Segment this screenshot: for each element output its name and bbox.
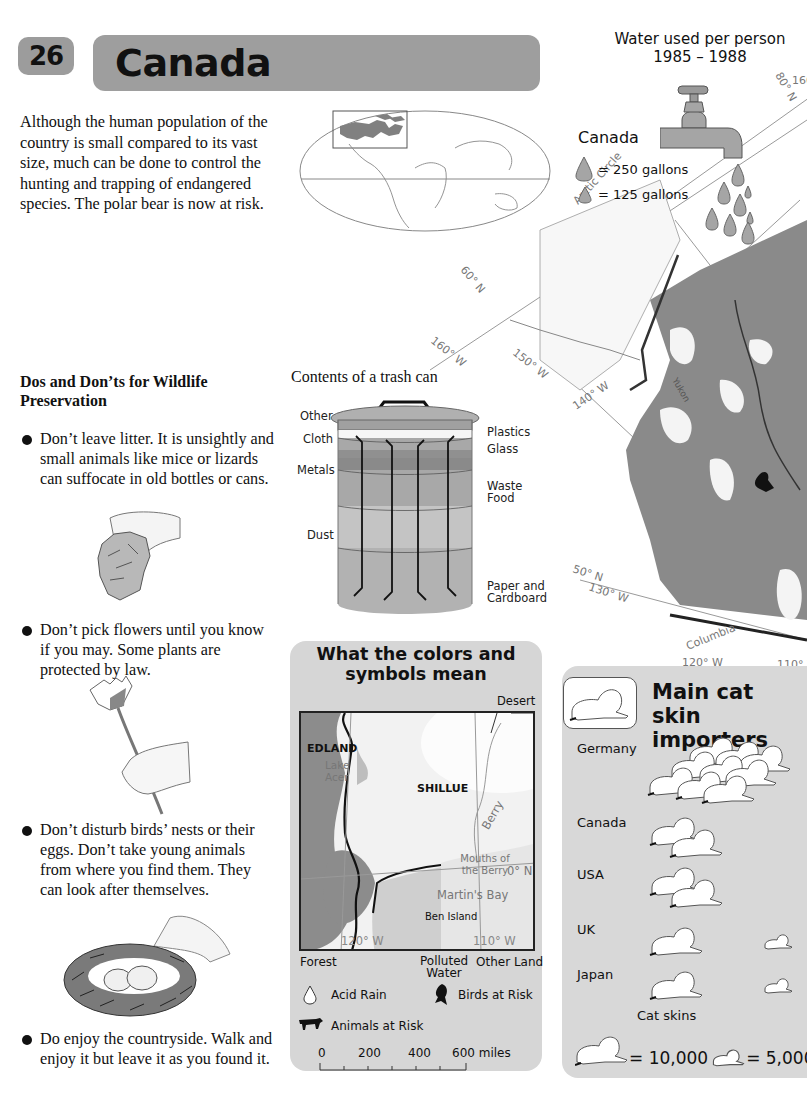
bullet-icon bbox=[22, 626, 32, 636]
dos-donts-item-text: Don’t leave litter. It is unsightly and … bbox=[40, 430, 274, 488]
dos-donts-heading: Dos and Don’ts for Wildlife Preservation bbox=[20, 372, 270, 410]
hand-crumpled-paper-illustration bbox=[80, 508, 190, 603]
legend-key-forest: Forest bbox=[300, 955, 337, 969]
legend-label-bay: Martin's Bay bbox=[437, 889, 508, 901]
legend-label-island: Ben Island bbox=[425, 911, 477, 923]
legend-title: What the colors and symbols mean bbox=[290, 644, 542, 684]
trash-label-metals: Metals bbox=[297, 464, 335, 476]
cat-header-icon-box bbox=[563, 677, 637, 729]
trash-label-cloth: Cloth bbox=[303, 433, 333, 445]
cat-skins-key-label: Cat skins bbox=[637, 1008, 696, 1023]
dos-donts-item-text: Don’t pick flowers until you know if you… bbox=[40, 621, 264, 679]
small-lion-key-value: = 5,000 bbox=[746, 1048, 807, 1068]
map-label-lat-50: 50° N bbox=[571, 562, 605, 584]
trash-label-plastics: Plastics bbox=[487, 426, 530, 438]
legend-label-desert: Desert bbox=[497, 695, 535, 707]
scale-tick-200: 200 bbox=[358, 1046, 381, 1060]
legend-symbol-birds-label: Birds at Risk bbox=[458, 988, 533, 1002]
legend-sample-map: EDLAND Lake Acer SHILLUE Berry Mouths of… bbox=[299, 711, 535, 951]
map-label-lon-160: 160° W bbox=[428, 334, 468, 369]
bullet-icon bbox=[22, 826, 32, 836]
water-chart-title-line2: 1985 – 1988 bbox=[600, 48, 800, 66]
cat-skin-pictograms bbox=[640, 735, 807, 1005]
map-label-lon-160-top: 160 bbox=[792, 74, 807, 87]
cat-row-country: Germany bbox=[577, 741, 637, 756]
legend-symbol-acid-rain-label: Acid Rain bbox=[331, 988, 387, 1002]
water-chart-title: Water used per person 1985 – 1988 bbox=[600, 30, 800, 66]
cat-skins-key: = 10,000 = 5,000 bbox=[575, 1034, 807, 1068]
dos-donts-item-text: Don’t disturb birds’ nests or their eggs… bbox=[40, 821, 255, 899]
animal-icon bbox=[298, 1017, 324, 1031]
trash-label-glass: Glass bbox=[487, 443, 518, 455]
trash-label-paper-cardboard: Paper and Cardboard bbox=[487, 580, 557, 604]
dos-donts-item: Do enjoy the countryside. Walk and enjoy… bbox=[20, 1029, 275, 1069]
legend-label-mouths: Mouths of the Berry bbox=[459, 853, 511, 877]
dos-donts-item-text: Do enjoy the countryside. Walk and enjoy… bbox=[40, 1030, 272, 1068]
map-label-columbia: Columbia bbox=[684, 621, 737, 653]
small-lion-key-icon bbox=[712, 1048, 746, 1068]
cat-row-country: UK bbox=[577, 922, 595, 937]
acid-rain-drop-icon bbox=[303, 985, 317, 1005]
page-number: 26 bbox=[18, 37, 74, 75]
large-drop-icon bbox=[574, 156, 594, 182]
small-drop-icon bbox=[578, 186, 592, 204]
dos-donts-item: Don’t pick flowers until you know if you… bbox=[20, 620, 275, 680]
intro-paragraph: Although the human population of the cou… bbox=[20, 112, 275, 215]
large-lion-key-icon bbox=[575, 1034, 629, 1068]
cat-skins-title-line1: Main cat skin bbox=[652, 680, 807, 728]
trash-can-chart bbox=[330, 398, 480, 618]
large-drop-label: = 250 gallons bbox=[598, 162, 688, 177]
legend-key-polluted-water: Polluted Water bbox=[420, 955, 468, 979]
scale-bar bbox=[318, 1062, 468, 1072]
hand-touching-nest-illustration bbox=[60, 910, 240, 1020]
lion-icon bbox=[564, 678, 634, 726]
cat-row-country: Canada bbox=[577, 815, 626, 830]
trash-chart-title: Contents of a trash can bbox=[291, 368, 438, 386]
large-lion-key-value: = 10,000 bbox=[629, 1048, 708, 1068]
legend-label-edland: EDLAND bbox=[307, 743, 358, 755]
legend-label-lat: 0° N bbox=[507, 865, 532, 877]
dos-donts-item: Don’t leave litter. It is unsightly and … bbox=[20, 429, 275, 489]
legend-label-lon-right: 110° W bbox=[473, 935, 516, 947]
water-chart-country: Canada bbox=[578, 128, 639, 147]
bullet-icon bbox=[22, 1035, 32, 1045]
legend-key-other-land: Other Land bbox=[476, 955, 543, 969]
legend-label-lake: Lake Acer bbox=[325, 759, 355, 783]
hand-holding-flower-illustration bbox=[70, 676, 210, 816]
bird-icon bbox=[432, 983, 450, 1007]
bullet-icon bbox=[22, 435, 32, 445]
scale-tick-600: 600 miles bbox=[452, 1046, 511, 1060]
cat-row-country: USA bbox=[577, 867, 604, 882]
trash-label-dust: Dust bbox=[307, 529, 334, 541]
cat-row-country: Japan bbox=[577, 967, 613, 982]
small-drop-label: = 125 gallons bbox=[598, 187, 688, 202]
trash-label-waste-food: Waste Food bbox=[487, 480, 547, 504]
water-chart-title-line1: Water used per person bbox=[600, 30, 800, 48]
legend-symbol-animals-label: Animals at Risk bbox=[331, 1019, 423, 1033]
trash-label-other: Other bbox=[300, 410, 333, 422]
legend-label-lon-left: 120° W bbox=[341, 935, 384, 947]
map-label-lon-130: 130° W bbox=[587, 580, 630, 605]
map-label-lat-60: 60° N bbox=[458, 264, 488, 296]
scale-tick-0: 0 bbox=[318, 1046, 326, 1060]
dos-donts-item: Don’t disturb birds’ nests or their eggs… bbox=[20, 820, 275, 900]
legend-label-shillue: SHILLUE bbox=[417, 783, 468, 795]
scale-tick-400: 400 bbox=[408, 1046, 431, 1060]
